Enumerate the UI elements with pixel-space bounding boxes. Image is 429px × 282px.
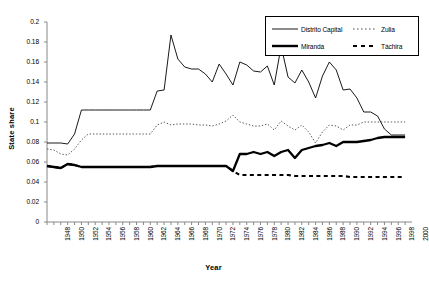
y-tick-label: 0.08 [13, 138, 39, 145]
x-tick-label: 1998 [408, 227, 415, 241]
legend-item-tachira: Táchira [352, 42, 402, 50]
y-tick-label: 0.18 [13, 38, 39, 45]
x-tick-label: 1958 [133, 227, 140, 241]
chart-legend: Distrito Capital Zulia Miranda Táchira [265, 16, 419, 56]
x-tick-label: 1972 [229, 227, 236, 241]
x-tick-label: 1952 [91, 227, 98, 241]
x-tick-label: 1992 [367, 227, 374, 241]
legend-swatch-distrito-capital [272, 25, 298, 33]
data-series-group [47, 35, 405, 177]
x-tick-label: 2000 [422, 227, 429, 241]
series-line-tachira [47, 164, 405, 177]
x-axis-title: Year [0, 263, 427, 272]
x-tick-label: 1962 [160, 227, 167, 241]
x-tick-label: 1976 [257, 227, 264, 241]
y-tick-label: 0.02 [13, 198, 39, 205]
legend-item-distrito-capital: Distrito Capital [272, 25, 342, 33]
y-tick-label: 0.12 [13, 98, 39, 105]
x-tick-label: 1950 [78, 227, 85, 241]
x-tick-label: 1984 [312, 227, 319, 241]
x-tick-label: 1974 [243, 227, 250, 241]
x-tick-label: 1956 [119, 227, 126, 241]
y-axis-title: State share [7, 84, 16, 174]
y-tick-label: 0.04 [13, 178, 39, 185]
x-tick-label: 1988 [339, 227, 346, 241]
x-tick-label: 1960 [146, 227, 153, 241]
y-tick-label: 0.06 [13, 158, 39, 165]
x-tick-label: 1982 [298, 227, 305, 241]
legend-label-zulia: Zulia [381, 26, 395, 33]
y-tick-label: 0.2 [13, 18, 39, 25]
y-tick-label: 0.16 [13, 58, 39, 65]
y-tick-label: 0 [13, 218, 39, 225]
legend-label-distrito-capital: Distrito Capital [301, 26, 342, 33]
x-tick-label: 1990 [353, 227, 360, 241]
x-tick-label: 1994 [381, 227, 388, 241]
x-tick-label: 1986 [326, 227, 333, 241]
x-tick-label: 1970 [215, 227, 222, 241]
x-tick-label: 1964 [174, 227, 181, 241]
x-tick-label: 1966 [188, 227, 195, 241]
legend-label-miranda: Miranda [301, 43, 324, 50]
legend-item-miranda: Miranda [272, 42, 324, 50]
series-line-zulia [47, 115, 405, 155]
x-tick-label: 1996 [394, 227, 401, 241]
x-tick-label: 1968 [202, 227, 209, 241]
x-tick-label: 1978 [270, 227, 277, 241]
legend-label-tachira: Táchira [381, 43, 402, 50]
y-tick-label: 0.14 [13, 78, 39, 85]
y-tick-label: 0.1 [13, 118, 39, 125]
legend-item-zulia: Zulia [352, 25, 395, 33]
legend-swatch-tachira [352, 42, 378, 50]
x-tick-label: 1948 [64, 227, 71, 241]
x-tick-label: 1980 [284, 227, 291, 241]
x-tick-label: 1954 [105, 227, 112, 241]
legend-swatch-zulia [352, 25, 378, 33]
legend-swatch-miranda [272, 42, 298, 50]
